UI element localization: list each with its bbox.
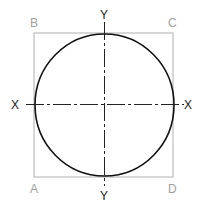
axis-label-x-right: X [184, 98, 192, 112]
axis-label-y-bottom: Y [100, 189, 108, 203]
axis-label-y-top: Y [100, 8, 108, 22]
corner-label-d: D [168, 182, 177, 196]
corner-label-a: A [30, 182, 38, 196]
axis-label-x-left: X [11, 98, 19, 112]
circle-in-square-diagram: B C A D X X Y Y [0, 0, 201, 207]
corner-label-c: C [168, 16, 177, 30]
corner-label-b: B [30, 16, 38, 30]
